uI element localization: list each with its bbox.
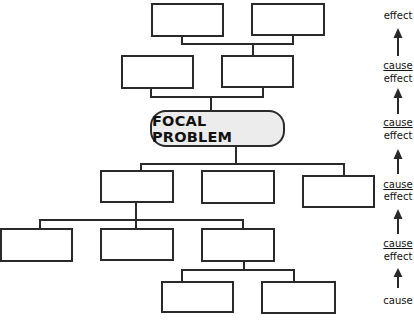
cause-label-4: cause — [378, 179, 414, 191]
effect-label-1: effect — [378, 10, 414, 22]
effect-label-5: effect — [378, 251, 414, 263]
effect-box-mid-right — [221, 55, 294, 88]
effect-label-2: effect — [378, 73, 414, 85]
effect-box-top-left — [151, 3, 224, 37]
arrow-up-icon — [392, 209, 404, 234]
cause-label-5: cause — [378, 238, 414, 250]
problem-tree-diagram: FOCAL PROBLEM effect cause effect cause … — [0, 0, 414, 321]
effect-label-4: effect — [378, 191, 414, 203]
cause-box-2-left — [0, 228, 73, 262]
arrow-up-icon — [392, 28, 404, 56]
effect-label-3: effect — [378, 130, 414, 142]
cause-box-2-right — [201, 228, 275, 262]
cause-label-2: cause — [378, 60, 414, 72]
effect-box-top-right — [251, 3, 325, 36]
focal-problem-box: FOCAL PROBLEM — [150, 110, 285, 147]
connector — [140, 163, 345, 165]
connector — [181, 269, 295, 271]
cause-box-1-right — [302, 175, 375, 208]
focal-problem-label: FOCAL PROBLEM — [152, 113, 283, 145]
cause-label-3: cause — [378, 117, 414, 129]
connector — [181, 43, 294, 45]
arrow-up-icon — [392, 268, 404, 288]
cause-box-2-center — [100, 228, 174, 261]
cause-box-1-center — [201, 170, 275, 204]
connector — [150, 96, 264, 98]
arrow-up-icon — [392, 88, 404, 114]
cause-box-3-left — [161, 281, 234, 313]
cause-box-3-right — [261, 281, 336, 314]
connector — [39, 219, 244, 221]
effect-box-mid-left — [121, 55, 194, 89]
arrow-up-icon — [392, 149, 404, 174]
cause-box-1-left — [100, 170, 174, 203]
cause-label-6: cause — [378, 295, 414, 307]
connector — [210, 96, 212, 111]
